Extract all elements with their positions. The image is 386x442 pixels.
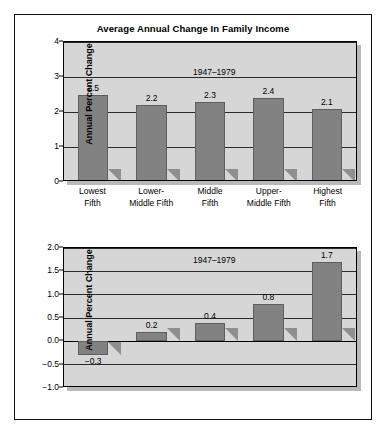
bar-drop-shadow: [284, 169, 297, 181]
y-axis-tick-mark: [59, 340, 63, 341]
bar-drop-shadow: [108, 169, 121, 181]
y-axis-tick-mark: [59, 247, 63, 248]
bar-group: 0.8: [239, 248, 297, 386]
x-axis-category-label: MiddleFifth: [181, 185, 240, 209]
y-axis-tick-mark: [59, 76, 63, 77]
plot-canvas-top: 2.52.22.32.42.1: [63, 41, 357, 181]
bar[interactable]: [312, 262, 342, 341]
y-axis-tick-label: −0.5: [42, 359, 59, 369]
y-axis-tick-mark: [59, 181, 63, 182]
y-axis-tick-mark: [59, 387, 63, 388]
y-axis-tick-mark: [59, 317, 63, 318]
bar-drop-shadow: [108, 342, 121, 355]
period-annotation: 1947–1979: [193, 67, 236, 77]
bar-drop-shadow: [342, 328, 355, 341]
bars-layer: 2.52.22.32.42.1: [64, 42, 356, 180]
y-axis-tick-mark: [59, 146, 63, 147]
y-axis-title: Annual Percent Change: [84, 24, 94, 164]
y-axis-title: Annual Percent Change: [84, 230, 94, 370]
figure-frame: Average Annual Change In Family Income A…: [14, 14, 372, 420]
plot-area-top: Annual Percent Change 2.52.22.32.42.1 01…: [63, 41, 357, 181]
bar[interactable]: [195, 102, 225, 182]
x-axis-category-label: Lower-Middle Fifth: [122, 185, 181, 209]
bar-group: 2.3: [181, 42, 239, 180]
bar-group: 0.4: [181, 248, 239, 386]
bar-group: 2.2: [122, 42, 180, 180]
y-axis-tick-label: 0.0: [47, 335, 59, 345]
period-annotation: 1947–1979: [193, 255, 236, 265]
bar-drop-shadow: [225, 328, 238, 341]
y-axis-tick-label: 2.0: [47, 242, 59, 252]
x-axis-category-line: Fifth: [181, 197, 240, 209]
chart-bottom: Annual Percent Change −0.30.20.40.81.7 −…: [15, 237, 371, 419]
x-axis-category-line: Middle Fifth: [122, 197, 181, 209]
x-axis-category-line: Fifth: [63, 197, 122, 209]
y-axis-tick-mark: [59, 270, 63, 271]
bar-value-label: 0.4: [181, 311, 239, 321]
x-axis-category-line: Fifth: [298, 197, 357, 209]
chart-title: Average Annual Change In Family Income: [15, 23, 371, 34]
x-axis-category-label: LowestFifth: [63, 185, 122, 209]
chart-top: Average Annual Change In Family Income A…: [15, 17, 371, 235]
bar-value-label: 0.8: [239, 292, 297, 302]
y-axis-tick-label: 1.5: [47, 265, 59, 275]
bar-value-label: 2.3: [181, 90, 239, 100]
x-axis-category-line: Middle Fifth: [239, 197, 298, 209]
y-axis-tick-label: 1.0: [47, 289, 59, 299]
bar-drop-shadow: [167, 169, 180, 181]
bar-group: 0.2: [122, 248, 180, 386]
bar-drop-shadow: [167, 328, 180, 341]
x-axis-category-line: Lowest: [63, 185, 122, 197]
y-axis-tick-mark: [59, 111, 63, 112]
bar[interactable]: [136, 105, 166, 181]
y-axis-tick-mark: [59, 293, 63, 294]
x-axis-category-label: Upper-Middle Fifth: [239, 185, 298, 209]
bar-value-label: 2.2: [122, 93, 180, 103]
bar[interactable]: [136, 332, 166, 341]
x-axis-category-line: Highest: [298, 185, 357, 197]
x-axis-category-line: Upper-: [239, 185, 298, 197]
y-axis-tick-mark: [59, 363, 63, 364]
bar-value-label: 1.7: [298, 250, 356, 260]
bar-drop-shadow: [342, 169, 355, 181]
bar-value-label: 2.1: [298, 97, 356, 107]
bar-group: 1.7: [298, 248, 356, 386]
x-axis-category-line: Middle: [181, 185, 240, 197]
bar[interactable]: [253, 304, 283, 341]
x-axis-category-line: Lower-: [122, 185, 181, 197]
y-axis-tick-mark: [59, 41, 63, 42]
bar-group: 2.1: [298, 42, 356, 180]
y-axis-tick-label: −1.0: [42, 382, 59, 392]
bar[interactable]: [195, 323, 225, 342]
bar[interactable]: [253, 98, 283, 181]
y-axis-tick-label: 0.5: [47, 312, 59, 322]
bars-layer: −0.30.20.40.81.7: [64, 248, 356, 386]
plot-canvas-bottom: −0.30.20.40.81.7: [63, 247, 357, 387]
x-axis-category-label: HighestFifth: [298, 185, 357, 209]
bar-group: 2.4: [239, 42, 297, 180]
bar-value-label: 0.2: [122, 320, 180, 330]
bar-drop-shadow: [284, 328, 297, 341]
bar-drop-shadow: [225, 169, 238, 181]
bar[interactable]: [312, 109, 342, 182]
plot-area-bottom: Annual Percent Change −0.30.20.40.81.7 −…: [63, 247, 357, 387]
bar-value-label: 2.4: [239, 86, 297, 96]
